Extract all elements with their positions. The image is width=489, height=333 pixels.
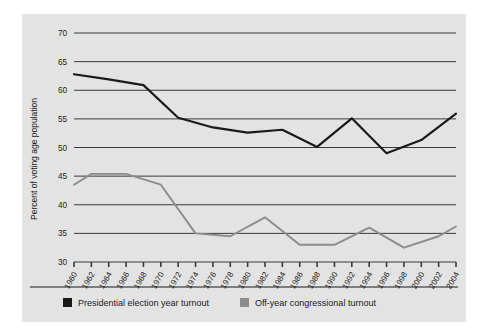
data-series-group: [74, 74, 456, 247]
legend-swatch: [63, 298, 72, 307]
chart-plot-area: 303540455055606570 196019621964196619681…: [22, 14, 466, 322]
legend-label: Presidential election year turnout: [78, 298, 210, 308]
y-tick-label: 55: [58, 115, 68, 124]
y-tick-label: 70: [58, 29, 68, 38]
y-tick-label: 45: [58, 172, 68, 181]
y-tick-label: 30: [58, 258, 68, 267]
turnout-line-chart: 303540455055606570 196019621964196619681…: [22, 14, 466, 322]
y-axis-title: Percent of voting age population: [29, 98, 39, 220]
y-tick-label: 65: [58, 58, 68, 67]
y-tick-label: 40: [58, 201, 68, 210]
legend-label: Off-year congressional turnout: [255, 298, 376, 308]
y-tick-label: 50: [58, 144, 68, 153]
series-line: [74, 74, 456, 153]
y-tick-label: 35: [58, 229, 68, 238]
y-tick-label: 60: [58, 86, 68, 95]
x-axis-tick-marks: [74, 262, 456, 267]
chart-figure: 303540455055606570 196019621964196619681…: [22, 14, 466, 322]
series-line: [74, 174, 456, 248]
legend-swatch: [240, 298, 249, 307]
y-axis-tick-labels: 303540455055606570: [58, 29, 68, 267]
chart-legend: Presidential election year turnoutOff-ye…: [63, 298, 376, 308]
